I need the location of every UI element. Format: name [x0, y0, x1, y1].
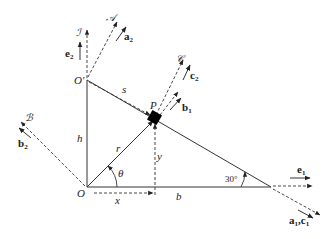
e1-label: e1	[297, 163, 306, 177]
frame-A-label: 𝒜	[106, 12, 119, 23]
frame-B-axis	[21, 122, 85, 186]
length-r-label: r	[116, 142, 121, 154]
length-b-label: b	[176, 190, 182, 202]
kinematics-diagram: ℐ e2 𝒜 a2 ℬ b2 𝒞 c2 b1 e1 a1,c1 O′ O P s…	[0, 0, 334, 239]
angle-theta-label: θ	[118, 167, 124, 179]
a2-label: a2	[124, 30, 134, 44]
b1-label: b1	[182, 101, 192, 115]
frame-I-label: ℐ	[76, 27, 83, 38]
frame-B-label: ℬ	[25, 112, 34, 123]
length-h-label: h	[77, 132, 83, 144]
length-s-label: s	[122, 83, 126, 95]
point-P-label: P	[149, 99, 157, 111]
frame-C-label: 𝒞	[176, 53, 186, 64]
c2-label: c2	[190, 69, 199, 83]
b1-arrow	[170, 98, 181, 110]
incline-angle-arc	[241, 172, 245, 187]
e2-label: e2	[65, 47, 74, 61]
theta-arc	[108, 166, 117, 187]
incline-edge	[87, 80, 271, 187]
a1c1-dashed-axis	[273, 189, 320, 215]
frame-A-axis	[88, 22, 117, 77]
point-O-prime-label: O′	[74, 74, 85, 86]
angle-30-label: 30°	[225, 174, 238, 184]
length-y-label: y	[156, 150, 162, 162]
length-x-label: x	[114, 194, 120, 206]
a1c1-label: a1,c1	[289, 214, 310, 228]
frame-C-axis	[156, 60, 183, 115]
c2-arrow	[183, 65, 190, 80]
point-O-label: O	[77, 187, 85, 199]
b2-label: b2	[18, 137, 28, 151]
